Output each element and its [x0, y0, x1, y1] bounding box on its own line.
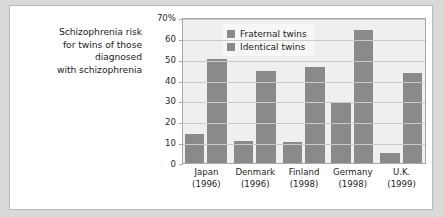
caption-line-4: with schizophrenia [16, 64, 142, 77]
bar [256, 71, 276, 163]
y-tick-label: 60 [165, 34, 176, 44]
legend-item-fraternal: Fraternal twins [227, 27, 307, 40]
x-tick-year: (1996) [231, 179, 280, 191]
bar [185, 134, 205, 163]
caption-line-1: Schizophrenia risk [16, 26, 142, 39]
x-tick-year: (1996) [182, 179, 231, 191]
x-tick-year: (1998) [328, 179, 377, 191]
bar [207, 59, 227, 163]
bar [403, 73, 423, 163]
x-tick-country: Germany [328, 167, 377, 179]
legend-swatch-identical [227, 43, 235, 51]
chart-figure: Schizophrenia risk for twins of those di… [9, 5, 433, 210]
chart-caption: Schizophrenia risk for twins of those di… [16, 26, 142, 76]
x-tick-label: Japan(1996) [182, 167, 231, 190]
x-axis-labels: Japan(1996)Denmark(1996)Finland(1998)Ger… [182, 167, 426, 201]
gridline [183, 102, 425, 103]
y-tick-label: 10 [165, 138, 176, 148]
gridline [183, 19, 425, 20]
gridline [183, 82, 425, 83]
x-tick-label: Denmark(1996) [231, 167, 280, 190]
gridline [183, 144, 425, 145]
bar [380, 153, 400, 163]
x-tick-label: U.K.(1999) [377, 167, 426, 190]
legend-swatch-fraternal [227, 30, 235, 38]
legend-label-identical: Identical twins [240, 42, 305, 52]
y-tick-label: 50 [165, 55, 176, 65]
x-tick-country: U.K. [377, 167, 426, 179]
gridline [183, 123, 425, 124]
legend-item-identical: Identical twins [227, 40, 307, 53]
gridline [183, 61, 425, 62]
y-tick-label: 20 [165, 117, 176, 127]
y-tick-label: 40 [165, 76, 176, 86]
x-tick-year: (1999) [377, 179, 426, 191]
x-tick-label: Finland(1998) [280, 167, 329, 190]
y-tick-label: 70% [157, 13, 176, 23]
y-tick-label: 30 [165, 96, 176, 106]
legend-label-fraternal: Fraternal twins [240, 29, 307, 39]
caption-line-3: diagnosed [16, 51, 142, 64]
x-tick-country: Finland [280, 167, 329, 179]
x-tick-year: (1998) [280, 179, 329, 191]
y-tick-label: 0 [171, 159, 176, 169]
x-tick-label: Germany(1998) [328, 167, 377, 190]
bar-chart: 010203040506070% Fraternal twins Identic… [150, 18, 426, 203]
bar [354, 30, 374, 163]
plot-area: Fraternal twins Identical twins [182, 18, 426, 164]
x-tick-country: Japan [182, 167, 231, 179]
y-axis-labels: 010203040506070% [150, 18, 179, 164]
x-tick-country: Denmark [231, 167, 280, 179]
gridline [183, 40, 425, 41]
bar [283, 142, 303, 163]
caption-line-2: for twins of those [16, 39, 142, 52]
y-tick-mark [179, 164, 183, 165]
bar [331, 103, 351, 163]
